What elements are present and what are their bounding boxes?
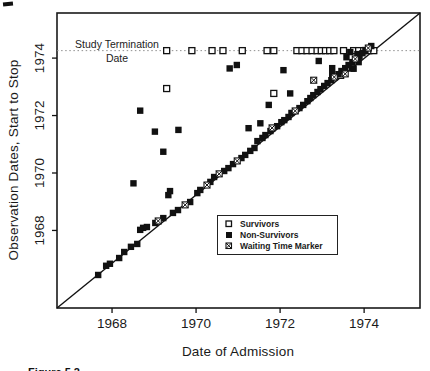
data-point-nonsurvivor — [116, 255, 122, 261]
data-point-survivor — [220, 48, 226, 54]
figure-5-2-observation-dates-chart: 19681970197219741968197019721974 Observa… — [0, 0, 430, 371]
data-point-survivor — [271, 48, 277, 54]
data-point-survivor — [331, 48, 337, 54]
data-point-nonsurvivor — [316, 58, 322, 64]
open-square-icon — [218, 220, 240, 228]
data-point-nonsurvivor — [251, 145, 257, 151]
data-point-nonsurvivor — [152, 128, 158, 134]
data-point-nonsurvivor — [137, 107, 143, 113]
data-point-nonsurvivor — [95, 272, 101, 278]
data-point-survivor — [341, 48, 347, 54]
data-point-nonsurvivor — [160, 149, 166, 155]
y-tick-label: 1968 — [32, 215, 47, 245]
x-tick-label: 1968 — [97, 316, 127, 331]
data-point-nonsurvivor — [226, 65, 232, 71]
data-point-nonsurvivor — [134, 241, 140, 247]
legend: Survivors Non-Survivors Waiting Time Mar… — [217, 215, 338, 255]
data-point-nonsurvivor — [144, 224, 150, 230]
data-point-nonsurvivor — [280, 67, 286, 73]
x-tick-label: 1972 — [265, 316, 295, 331]
data-point-nonsurvivor — [128, 244, 134, 250]
y-tick-label: 1972 — [32, 101, 47, 131]
data-point-survivor — [264, 48, 270, 54]
data-point-nonsurvivor — [329, 65, 335, 71]
crossed-square-icon — [218, 242, 240, 250]
study-termination-label-line2: Date — [106, 52, 128, 64]
data-point-nonsurvivor — [121, 249, 127, 255]
study-termination-label-line1: Study Termination — [75, 38, 159, 50]
data-point-nonsurvivor — [347, 49, 353, 55]
data-point-survivor — [209, 48, 215, 54]
data-point-nonsurvivor — [175, 127, 181, 133]
scatter-plot: 19681970197219741968197019721974 — [0, 0, 430, 371]
data-point-nonsurvivor — [130, 180, 136, 186]
y-tick-label: 1974 — [32, 43, 47, 74]
data-point-survivor — [239, 48, 245, 54]
x-axis-title: Date of Admission — [182, 344, 294, 359]
filled-square-icon — [218, 231, 240, 239]
legend-label-waiting-time: Waiting Time Marker — [240, 241, 323, 251]
data-point-survivor — [164, 86, 170, 92]
data-point-survivor — [271, 90, 277, 96]
data-point-nonsurvivor — [245, 125, 251, 131]
data-point-nonsurvivor — [175, 207, 181, 213]
legend-label-nonsurvivors: Non-Survivors — [240, 230, 299, 240]
x-tick-label: 1974 — [349, 316, 380, 331]
figure-caption-clipped: Figure 5.2 — [28, 366, 408, 371]
y-axis-title: Observation Dates, Start to Stop — [6, 60, 21, 261]
data-point-survivor — [189, 48, 195, 54]
data-point-nonsurvivor — [234, 62, 240, 68]
data-point-nonsurvivor — [167, 188, 173, 194]
y-tick-label: 1970 — [32, 158, 47, 188]
legend-item-waiting-time: Waiting Time Marker — [218, 241, 337, 252]
data-point-nonsurvivor — [197, 187, 203, 193]
legend-item-nonsurvivors: Non-Survivors — [218, 230, 337, 241]
legend-label-survivors: Survivors — [240, 219, 279, 229]
data-point-survivor — [164, 48, 170, 54]
legend-item-survivors: Survivors — [218, 219, 337, 230]
data-point-nonsurvivor — [107, 261, 113, 267]
data-point-nonsurvivor — [266, 102, 272, 108]
x-tick-label: 1970 — [181, 316, 211, 331]
data-point-nonsurvivor — [287, 90, 293, 96]
data-point-nonsurvivor — [257, 120, 263, 126]
